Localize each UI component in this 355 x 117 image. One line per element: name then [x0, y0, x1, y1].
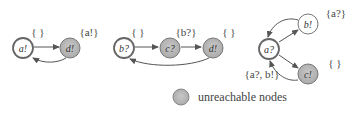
node-label: c! [304, 69, 312, 80]
node-c-question-unreachable: c? [160, 38, 180, 58]
set-label: { } [31, 26, 44, 38]
set-label: { } [328, 57, 341, 69]
node-d-bang-unreachable: d! [60, 38, 80, 58]
legend: unreachable nodes [173, 89, 287, 105]
node-label: c? [165, 43, 174, 54]
node-b-bang: b! [298, 14, 318, 34]
edge-d-to-b [130, 58, 209, 65]
node-label: a? [264, 44, 274, 55]
graph-1: a! d! { } {a!} [13, 26, 99, 62]
node-label: a! [19, 43, 27, 54]
set-label: {a?} [326, 7, 346, 19]
node-label: d! [66, 43, 74, 54]
edge-b-to-a [268, 19, 298, 37]
set-label: {a?, b!} [245, 68, 280, 80]
node-label: d! [209, 43, 217, 54]
set-label: { } [131, 26, 144, 38]
graph-3: a? b! c! {a?, b!} {a?} { } [245, 7, 347, 84]
graph-2: b? c? d! { } {b?} { } [114, 26, 236, 65]
node-c-bang-unreachable: c! [298, 64, 318, 84]
legend-label: unreachable nodes [198, 90, 287, 104]
node-a-question: a? [259, 39, 279, 59]
edge-a-to-b [279, 30, 298, 42]
node-label: b? [119, 43, 129, 54]
diagram-canvas: a! d! { } {a!} b? c? d! { } {b?} { } [0, 0, 355, 117]
node-b-question: b? [114, 38, 134, 58]
set-label: { } [222, 26, 235, 38]
node-a-bang: a! [13, 38, 33, 58]
node-d-bang-unreachable: d! [203, 38, 223, 58]
node-label: b! [304, 19, 312, 30]
set-label: {b?} [176, 26, 197, 38]
set-label: {a!} [79, 26, 98, 38]
edge-d-to-a [33, 58, 66, 62]
legend-unreachable-swatch [173, 89, 189, 105]
edge-a-to-c [279, 55, 298, 68]
